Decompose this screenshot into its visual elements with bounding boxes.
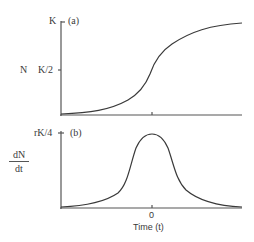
logistic-curve xyxy=(61,23,242,114)
growth-rate-curve xyxy=(61,134,242,207)
x-tick-zero: 0 xyxy=(149,211,154,220)
dndt-denominator: dt xyxy=(9,162,29,174)
panel-b-axes xyxy=(58,131,242,209)
y-tick-k: K xyxy=(49,16,56,26)
panel-b-label: (b) xyxy=(70,128,82,138)
y-tick-rk-quarter: rK/4 xyxy=(34,128,52,138)
y-axis-label-n: N xyxy=(20,65,27,75)
y-tick-k-half: K/2 xyxy=(38,65,53,75)
logistic-growth-figure xyxy=(0,0,254,242)
panel-a-axes xyxy=(58,21,242,116)
panel-a-label: (a) xyxy=(68,16,79,26)
dndt-numerator: dN xyxy=(9,150,29,162)
y-axis-label-dndt: dN dt xyxy=(9,150,29,174)
x-axis-label-time: Time (t) xyxy=(133,223,164,232)
